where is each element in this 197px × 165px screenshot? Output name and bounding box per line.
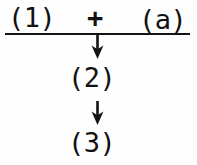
down-arrow-icon-to-product [88,100,108,126]
reactant-label-1: (1) [8,4,55,31]
down-arrow-icon-to-intermediate [88,34,108,60]
reagent-label-a: (a) [139,6,186,33]
intermediate-label-2: (2) [68,64,115,91]
product-label-3: (3) [68,129,115,156]
plus-operator-icon: + [87,4,103,31]
reaction-scheme-figure: (1) + (a) (2) (3) [0,0,197,165]
